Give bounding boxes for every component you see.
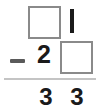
- digit-one-stroke: [70, 9, 74, 33]
- subtrahend-ones-answer-box[interactable]: [60, 41, 93, 74]
- minus-operator-icon: [10, 59, 25, 63]
- subtraction-worksheet: 1 2 3 3: [0, 0, 102, 110]
- difference-ones-digit: 3: [67, 85, 87, 109]
- difference-tens-digit: 3: [36, 85, 56, 109]
- subtrahend-tens-digit: 2: [34, 42, 54, 67]
- problem-separator-rule: [4, 78, 96, 80]
- minuend-ones-digit: 1: [64, 9, 80, 33]
- minuend-tens-answer-box[interactable]: [28, 6, 61, 39]
